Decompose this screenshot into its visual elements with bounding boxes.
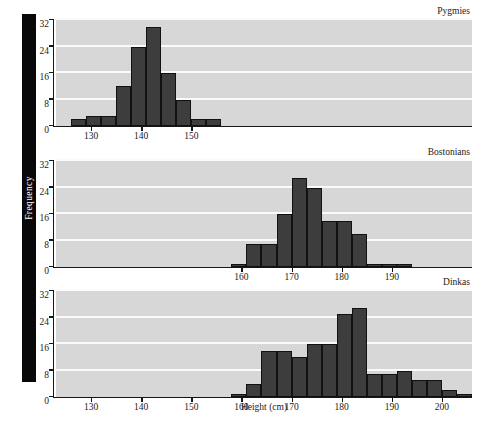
- histogram-bar: [427, 380, 442, 397]
- x-axis-line: [53, 267, 472, 268]
- histogram-bar: [146, 27, 161, 126]
- gridline: [56, 239, 472, 241]
- x-tick-label: 140: [134, 132, 148, 142]
- histogram-bar: [322, 344, 337, 397]
- gridline: [56, 342, 472, 344]
- histogram-bar: [261, 244, 276, 267]
- x-tick: [442, 397, 443, 402]
- histogram-bar: [337, 221, 352, 267]
- y-tick: [49, 239, 54, 240]
- gridline: [56, 159, 472, 161]
- histogram-bar: [206, 119, 221, 126]
- x-tick: [191, 397, 192, 402]
- gridline: [56, 289, 472, 291]
- histogram-bar: [246, 244, 261, 267]
- x-axis-title: Height (cm): [56, 402, 472, 412]
- histogram-bar: [337, 314, 352, 397]
- histogram-bar: [292, 357, 307, 397]
- x-tick: [91, 397, 92, 402]
- histogram-bar: [292, 178, 307, 267]
- y-axis-title: Frequency: [22, 14, 36, 382]
- x-tick: [342, 267, 343, 272]
- histogram-bar: [322, 221, 337, 267]
- x-tick: [241, 397, 242, 402]
- histogram-bar: [86, 116, 101, 126]
- x-tick-label: 180: [335, 273, 349, 283]
- y-axis-line: [53, 161, 54, 267]
- y-tick: [49, 290, 54, 291]
- x-tick: [91, 126, 92, 131]
- histogram-bar: [277, 351, 292, 397]
- gridline: [56, 18, 472, 20]
- y-tick: [49, 213, 54, 214]
- panel-title: Bostonians: [428, 148, 470, 158]
- histogram-panel-dinkas: 08162432130140150160170180190200Dinkas: [56, 291, 472, 397]
- gridline: [56, 71, 472, 73]
- histogram-bar: [442, 390, 457, 397]
- x-tick-label: 170: [284, 273, 298, 283]
- x-tick: [191, 126, 192, 131]
- x-tick-label: 160: [234, 273, 248, 283]
- histogram-bar: [71, 119, 86, 126]
- histogram-bar: [382, 374, 397, 397]
- histogram-bar: [131, 47, 146, 127]
- x-tick: [141, 126, 142, 131]
- y-tick: [49, 19, 54, 20]
- x-tick-label: 150: [184, 132, 198, 142]
- y-tick: [49, 369, 54, 370]
- histogram-bar: [246, 384, 261, 397]
- x-tick: [141, 397, 142, 402]
- histogram-figure: Frequency 08162432130140150Pygmies081624…: [0, 0, 486, 429]
- histogram-bar: [161, 73, 176, 126]
- histogram-bar: [352, 308, 367, 397]
- histogram-bar: [307, 188, 322, 268]
- y-axis-line: [53, 291, 54, 397]
- y-tick: [49, 98, 54, 99]
- x-tick-label: 130: [84, 132, 98, 142]
- gridline: [56, 186, 472, 188]
- histogram-bar: [367, 374, 382, 397]
- histogram-bar: [116, 86, 131, 126]
- histogram-bar: [176, 100, 191, 127]
- histogram-bar: [397, 371, 412, 398]
- histogram-bar: [191, 119, 206, 126]
- gridline: [56, 212, 472, 214]
- x-tick: [392, 397, 393, 402]
- histogram-bar: [101, 116, 116, 126]
- histogram-bar: [352, 234, 367, 267]
- y-axis-line: [53, 20, 54, 126]
- y-tick: [49, 316, 54, 317]
- x-axis-line: [53, 126, 472, 127]
- y-tick: [49, 72, 54, 73]
- y-tick: [49, 186, 54, 187]
- histogram-bar: [277, 214, 292, 267]
- y-tick: [49, 343, 54, 344]
- x-tick: [342, 397, 343, 402]
- histogram-bar: [261, 351, 276, 397]
- x-tick: [292, 267, 293, 272]
- histogram-bar: [412, 380, 427, 397]
- histogram-bar: [307, 344, 322, 397]
- gridline: [56, 45, 472, 47]
- x-tick: [392, 267, 393, 272]
- x-tick: [292, 397, 293, 402]
- y-tick: [49, 45, 54, 46]
- gridline: [56, 316, 472, 318]
- panel-title: Pygmies: [437, 7, 470, 17]
- x-tick-label: 190: [385, 273, 399, 283]
- x-tick: [241, 267, 242, 272]
- histogram-panel-bostonians: 08162432160170180190Bostonians: [56, 161, 472, 267]
- panel-title: Dinkas: [443, 278, 470, 288]
- x-axis-line: [53, 397, 472, 398]
- y-tick: [49, 160, 54, 161]
- histogram-panel-pygmies: 08162432130140150Pygmies: [56, 20, 472, 126]
